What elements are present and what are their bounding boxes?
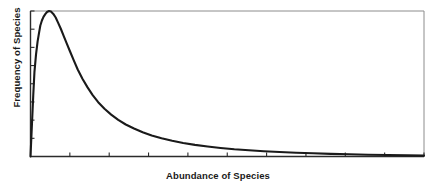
abundance-curve bbox=[31, 11, 425, 157]
species-abundance-chart: Frequency of Species Abundance of Specie… bbox=[0, 0, 436, 188]
chart-canvas bbox=[0, 0, 436, 188]
x-axis-label: Abundance of Species bbox=[0, 170, 436, 181]
plot-frame bbox=[30, 11, 424, 156]
y-axis-label: Frequency of Species bbox=[11, 0, 22, 118]
